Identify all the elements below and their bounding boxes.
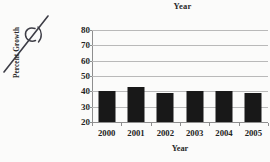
x-tick-label-2000: 2000 [98, 128, 115, 138]
bar-2000 [98, 91, 115, 122]
bar-slot [239, 30, 268, 122]
bar-slot [209, 30, 238, 122]
x-tick-mark [92, 123, 93, 126]
bar-2005 [245, 93, 262, 122]
y-tick-mark-60 [88, 61, 92, 62]
y-tick-label-20: 20 [66, 118, 90, 127]
x-tick-label-2001: 2001 [127, 128, 144, 138]
plot-area [92, 30, 268, 122]
bar-slot [180, 30, 209, 122]
x-axis-label: Year [92, 144, 268, 153]
bar-2004 [215, 91, 232, 122]
bar-slot [92, 30, 121, 122]
x-tick-mark [209, 123, 210, 126]
bar-chart-figure: Year Percent Growth 80706050403020 20002… [0, 0, 270, 162]
y-tick-label-60: 60 [66, 56, 90, 65]
y-tick-mark-40 [88, 91, 92, 92]
x-tick-mark [239, 123, 240, 126]
y-tick-label-80: 80 [66, 26, 90, 35]
x-tick-mark [121, 123, 122, 126]
y-tick-mark-50 [88, 76, 92, 77]
x-tick-mark [151, 123, 152, 126]
y-axis-tick-labels: 80706050403020 [66, 28, 90, 124]
bar-slot [151, 30, 180, 122]
y-tick-mark-70 [88, 45, 92, 46]
x-tick-label-2004: 2004 [215, 128, 232, 138]
bar-series [92, 30, 268, 122]
y-axis-label: Percent Growth [12, 8, 21, 98]
bar-2003 [186, 91, 203, 122]
bar-slot [121, 30, 150, 122]
y-tick-label-30: 30 [66, 102, 90, 111]
x-tick-mark [268, 123, 269, 126]
y-tick-mark-80 [88, 30, 92, 31]
x-tick-label-2002: 2002 [157, 128, 174, 138]
y-tick-label-70: 70 [66, 41, 90, 50]
chart-title: Year [95, 1, 270, 11]
y-tick-label-40: 40 [66, 87, 90, 96]
x-tick-label-2005: 2005 [245, 128, 262, 138]
y-tick-mark-30 [88, 107, 92, 108]
y-tick-label-50: 50 [66, 72, 90, 81]
x-tick-mark [180, 123, 181, 126]
x-axis-tick-labels: 200020012002200320042005 [92, 128, 268, 142]
bar-2001 [127, 87, 144, 122]
bar-2002 [157, 93, 174, 122]
x-tick-label-2003: 2003 [186, 128, 203, 138]
